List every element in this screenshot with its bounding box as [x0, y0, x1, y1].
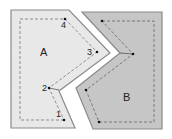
region-b-dot-left — [85, 89, 88, 92]
region-a-label: A — [40, 47, 47, 58]
polygon-diagram: A B 1 2 3 4 — [0, 0, 172, 139]
region-b-dot-top — [101, 20, 104, 23]
region-b-dot-bottom — [98, 121, 101, 124]
region-b-label: B — [123, 92, 130, 103]
point-2-dot — [48, 87, 51, 90]
point-3-label: 3 — [87, 48, 92, 57]
diagram-canvas — [0, 0, 172, 139]
point-1-label: 1 — [56, 110, 61, 119]
point-4-label: 4 — [61, 21, 66, 30]
region-b-polygon — [76, 12, 162, 129]
region-b-dot-right — [132, 53, 135, 56]
point-2-label: 2 — [42, 84, 47, 93]
point-1-dot — [63, 119, 66, 122]
point-3-dot — [96, 51, 99, 54]
